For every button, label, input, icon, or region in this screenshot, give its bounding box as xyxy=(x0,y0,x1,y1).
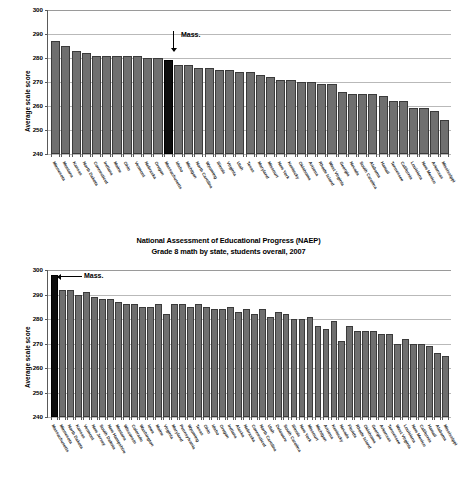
bar-new-jersey xyxy=(91,297,98,417)
bar-california xyxy=(418,344,425,418)
x-tickmark xyxy=(99,417,106,420)
bar-new-york xyxy=(276,80,285,154)
x-tickmark xyxy=(246,154,255,157)
x-label-slot: Missouri xyxy=(265,160,274,232)
x-tickmark xyxy=(419,154,428,157)
x-label-slot: Nevada xyxy=(347,160,356,232)
x-tickmark xyxy=(123,417,130,420)
x-tickmark xyxy=(327,154,336,157)
x-label-slot: Massachusetts xyxy=(50,423,57,481)
x-label-slot: Arkansas xyxy=(429,160,438,232)
chart2-panel: Average scale score 24025026027028029030… xyxy=(0,268,457,481)
x-tickmark xyxy=(379,154,388,157)
x-label-utah: Utah xyxy=(236,161,245,172)
chart2-title: National Assessment of Educational Progr… xyxy=(0,236,457,257)
x-label-slot: Arizona xyxy=(306,160,315,232)
x-label-slot: Maine xyxy=(112,160,121,232)
x-label-slot: North Dakota xyxy=(81,160,90,232)
bar-maryland xyxy=(171,304,178,417)
x-label-slot: Louisiana xyxy=(402,423,409,481)
x-tickmark xyxy=(184,154,193,157)
chart1-plot-area: 240250260270280290300 xyxy=(47,10,451,155)
x-tickmark xyxy=(51,154,60,157)
x-tickmark xyxy=(362,417,369,420)
x-tickmark xyxy=(163,417,170,420)
bar-north-dakota xyxy=(82,53,91,154)
bar-mississippi xyxy=(440,120,449,154)
bar-ohio xyxy=(203,307,210,417)
x-label-slot: Michigan xyxy=(314,423,321,481)
bar-arkansas xyxy=(430,111,439,154)
bar-rhode-island xyxy=(317,84,326,154)
x-tickmark xyxy=(227,417,234,420)
x-label-slot: Kentucky xyxy=(330,423,337,481)
x-label-slot: Utah xyxy=(235,160,244,232)
x-label-slot: Virginia xyxy=(162,423,169,481)
x-tickmark xyxy=(195,417,202,420)
y-tick-label-300: 300 xyxy=(33,267,43,273)
x-tickmark xyxy=(211,417,218,420)
bar-maryland xyxy=(256,75,265,154)
bar-michigan xyxy=(315,326,322,417)
bar-west-virginia xyxy=(394,344,401,418)
bar-oklahoma xyxy=(362,331,369,417)
chart1-x-tickmarks xyxy=(48,154,451,157)
x-label-slot: Washington xyxy=(138,423,145,481)
x-label-mississippi: Mississippi xyxy=(441,161,457,184)
x-tickmark xyxy=(358,154,367,157)
bar-montana xyxy=(115,302,122,417)
x-label-slot: Tennessee xyxy=(386,423,393,481)
x-tickmark xyxy=(123,154,132,157)
bar-arizona xyxy=(323,329,330,417)
x-tickmark xyxy=(399,154,408,157)
x-label-slot: South Carolina xyxy=(282,423,289,481)
bar-missouri xyxy=(307,317,314,417)
x-tickmark xyxy=(331,417,338,420)
bar-idaho xyxy=(211,309,218,417)
chart1-x-axis-labels: MinnesotaMontanaKansasNorth DakotaConnec… xyxy=(47,160,451,232)
bar-alabama xyxy=(434,353,441,417)
x-label-slot: Oklahoma xyxy=(296,160,305,232)
y-tick-label-240: 240 xyxy=(33,414,43,420)
bar-oregon xyxy=(219,309,226,417)
x-tickmark xyxy=(171,417,178,420)
x-label-slot: Oklahoma xyxy=(362,423,369,481)
x-tickmark xyxy=(133,154,142,157)
x-tickmark xyxy=(410,417,417,420)
down-arrow-icon xyxy=(173,31,174,51)
x-tickmark xyxy=(266,154,275,157)
x-label-slot: Missouri xyxy=(306,423,313,481)
x-tickmark xyxy=(61,154,70,157)
x-label-slot: Arizona xyxy=(322,423,329,481)
bar-missouri xyxy=(266,77,275,154)
bar-tennessee xyxy=(386,334,393,417)
x-tickmark xyxy=(215,154,224,157)
x-tickmark xyxy=(354,417,361,420)
chart1-bars xyxy=(48,10,451,154)
x-tickmark xyxy=(235,417,242,420)
x-tickmark xyxy=(307,417,314,420)
bar-georgia xyxy=(370,331,377,417)
x-tickmark xyxy=(315,417,322,420)
y-tick-label-280: 280 xyxy=(33,55,43,61)
x-label-slot: Hawaii xyxy=(378,160,387,232)
bar-arizona xyxy=(307,82,316,154)
x-tickmark xyxy=(389,154,398,157)
chart2-annotation-text: Mass. xyxy=(84,272,103,279)
bar-kentucky xyxy=(286,80,295,154)
bar-pennsylvania xyxy=(179,304,186,417)
x-tickmark xyxy=(91,417,98,420)
bar-florida xyxy=(346,326,353,417)
bar-maine xyxy=(112,56,121,154)
x-tickmark xyxy=(402,417,409,420)
x-tickmark xyxy=(243,417,250,420)
bar-indiana xyxy=(102,56,111,154)
x-label-slot: Kansas xyxy=(71,160,80,232)
bar-south-carolina xyxy=(358,94,367,154)
x-label-slot: Louisiana xyxy=(409,160,418,232)
x-tickmark xyxy=(203,417,210,420)
x-tickmark xyxy=(286,154,295,157)
x-label-slot: Iowa xyxy=(146,423,153,481)
x-tickmark xyxy=(297,154,306,157)
x-label-slot: Alabama xyxy=(368,160,377,232)
